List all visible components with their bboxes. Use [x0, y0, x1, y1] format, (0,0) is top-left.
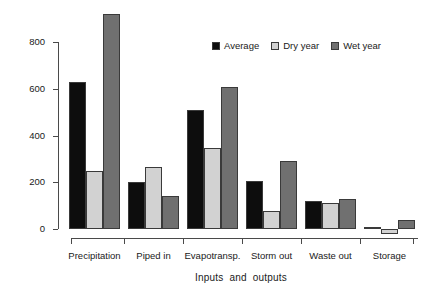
y-axis-tick: 800 [53, 42, 58, 43]
y-axis-tick-label: 200 [29, 176, 45, 187]
bar [246, 181, 263, 229]
x-axis-tick-labels: PrecipitationPiped inEvapotransp.Storm o… [58, 250, 424, 264]
bar [187, 110, 204, 229]
legend-item: Dry year [271, 40, 319, 51]
x-axis-group-tick [242, 238, 243, 244]
y-axis-tick: 400 [53, 136, 58, 137]
x-axis-category-label: Precipitation [68, 250, 120, 262]
bar [381, 229, 398, 234]
x-axis-group-tick [360, 238, 361, 244]
x-axis-category-label: Evapotransp. [185, 250, 241, 262]
bar [145, 167, 162, 229]
y-axis-tick-label: 800 [29, 36, 45, 47]
bar [280, 161, 297, 229]
chart-legend: AverageDry yearWet year [212, 40, 381, 51]
y-axis-tick: 600 [53, 89, 58, 90]
x-axis-category-label: Waste out [309, 250, 351, 262]
legend-item: Wet year [331, 40, 381, 51]
y-axis-tick: 0 [53, 229, 58, 230]
bar-chart: Mean annual water balance (mm) 020040060… [0, 0, 431, 302]
legend-item: Average [212, 40, 259, 51]
y-axis-tick-label: 0 [40, 223, 45, 234]
x-axis-title: Inputs and outputs [58, 272, 424, 283]
y-axis-line [58, 42, 59, 229]
bar [204, 148, 221, 229]
bar [103, 14, 120, 229]
x-axis-bracket [58, 238, 424, 247]
x-axis-category-label: Piped in [136, 250, 170, 262]
x-axis-endcap [413, 238, 414, 244]
bar [86, 171, 103, 229]
legend-label: Average [224, 40, 259, 51]
bar [162, 196, 179, 229]
y-axis-tick: 200 [53, 182, 58, 183]
legend-label: Wet year [343, 40, 381, 51]
bar [339, 199, 356, 229]
legend-swatch-icon [331, 42, 339, 50]
bar [221, 87, 238, 229]
x-axis-group-tick [183, 238, 184, 244]
bar [305, 201, 322, 229]
bar [263, 211, 280, 229]
bar [69, 82, 86, 229]
y-axis-tick-label: 400 [29, 130, 45, 141]
legend-swatch-icon [212, 42, 220, 50]
bar [128, 182, 145, 229]
x-axis-category-label: Storage [373, 250, 406, 262]
bar [364, 227, 381, 229]
legend-label: Dry year [283, 40, 319, 51]
legend-swatch-icon [271, 42, 279, 50]
x-axis-endcap [71, 238, 72, 244]
y-axis-tick-label: 600 [29, 83, 45, 94]
x-axis-group-tick [124, 238, 125, 244]
x-axis-category-label: Storm out [251, 250, 292, 262]
bar [322, 203, 339, 229]
bar [398, 220, 415, 229]
x-axis-group-tick [301, 238, 302, 244]
